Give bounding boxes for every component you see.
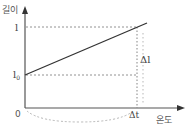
origin-label: 0 — [15, 109, 21, 119]
delta-t-arc — [27, 111, 132, 122]
y-axis-label: 길이 — [2, 5, 18, 15]
length-line — [25, 23, 147, 75]
delta-t-label: Δt — [129, 110, 139, 120]
length-temperature-diagram: 길이 l l0 0 Δl Δt 온도 — [0, 0, 188, 131]
l-label: l — [15, 22, 18, 33]
y-axis-arrow-icon — [22, 6, 28, 14]
x-axis-label: 온도 — [156, 115, 172, 125]
x-axis-arrow-icon — [177, 105, 185, 111]
l0-label: l0 — [13, 69, 20, 81]
delta-l-label: Δl — [140, 54, 150, 65]
